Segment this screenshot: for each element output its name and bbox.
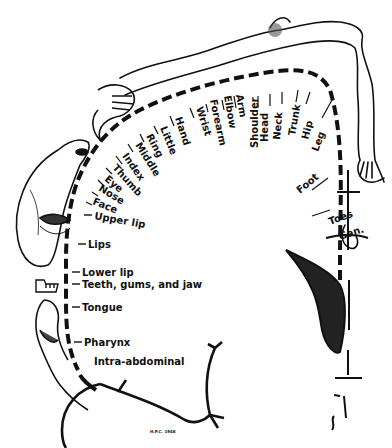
label-neck: Neck xyxy=(271,111,284,140)
label-hip: Hip xyxy=(299,119,315,140)
label-pharynx: Pharynx xyxy=(84,337,131,348)
label-lips: Lips xyxy=(88,239,111,250)
label-teeth-gums-jaw: Teeth, gums, and jaw xyxy=(82,279,202,290)
label-lower-lip: Lower lip xyxy=(82,267,134,278)
signature: H.P.C. 1948 xyxy=(150,429,176,434)
face-figure xyxy=(17,140,90,266)
homunculus-diagram: H.P.C. 1948 Gen. Toes Foot Leg Hip Trunk… xyxy=(0,0,392,448)
jaw-figure xyxy=(36,280,58,292)
label-tongue: Tongue xyxy=(82,302,123,313)
label-foot: Foot xyxy=(294,171,320,196)
cortex-sections xyxy=(286,170,368,430)
label-toes: Toes xyxy=(327,208,354,227)
label-head: Head xyxy=(259,113,270,142)
label-upper-lip: Upper lip xyxy=(94,210,147,230)
label-intra-abdominal: Intra-abdominal xyxy=(94,356,185,367)
label-leg: Leg xyxy=(310,130,327,153)
